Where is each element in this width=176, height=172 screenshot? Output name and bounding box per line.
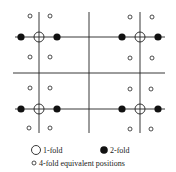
one-fold-position-marker: [34, 32, 44, 42]
one-fold-position-marker: [34, 104, 44, 114]
grid-lines: [13, 12, 165, 133]
four-fold-position-marker: [48, 126, 52, 130]
four-fold-position-marker: [149, 87, 153, 91]
two-fold-position-marker: [53, 105, 60, 112]
four-fold-position-marker: [28, 86, 32, 90]
symmetry-diagram: 1-fold 2-fold 4-fold equivalent position…: [0, 0, 176, 172]
four-fold-position-marker: [28, 55, 32, 59]
four-fold-legend-label: 4-fold equivalent positions: [39, 159, 125, 168]
four-fold-position-marker: [48, 55, 52, 59]
four-fold-position-marker: [48, 86, 52, 90]
one-fold-position-marker: [135, 104, 145, 114]
one-fold-legend-label: 1-fold: [43, 146, 63, 155]
four-fold-position-marker: [27, 126, 31, 130]
two-fold-position-marker: [154, 33, 161, 40]
four-fold-position-marker: [128, 15, 132, 19]
one-fold-legend-icon: [32, 146, 41, 155]
two-fold-position-marker: [118, 105, 125, 112]
one-fold-position-marker: [135, 32, 145, 42]
two-fold-position-marker: [53, 33, 60, 40]
four-fold-position-marker: [28, 14, 32, 18]
four-fold-position-marker: [128, 56, 132, 60]
four-fold-position-marker: [128, 127, 132, 131]
four-fold-legend-icon: [32, 161, 36, 165]
two-fold-position-marker: [17, 105, 24, 112]
two-fold-legend-icon: [100, 146, 108, 154]
two-fold-position-marker: [118, 33, 125, 40]
four-fold-position-marker: [128, 87, 132, 91]
four-fold-position-marker: [149, 127, 153, 131]
four-fold-position-marker: [48, 14, 52, 18]
two-fold-position-marker: [17, 33, 24, 40]
four-fold-position-marker: [150, 56, 154, 60]
four-fold-position-marker: [150, 15, 154, 19]
two-fold-position-marker: [154, 105, 161, 112]
legend: 1-fold 2-fold 4-fold equivalent position…: [32, 146, 130, 169]
four-fold-positions: [27, 14, 154, 131]
two-fold-legend-label: 2-fold: [110, 146, 130, 155]
